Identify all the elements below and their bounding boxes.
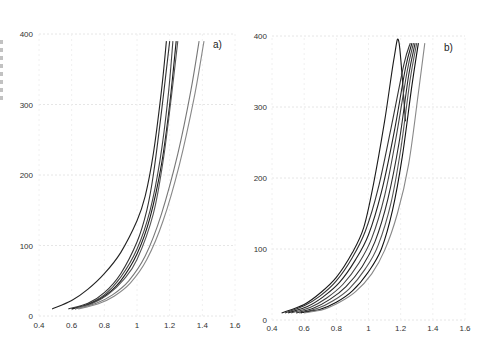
- gridlines: [39, 34, 235, 316]
- series-line-curve7: [78, 41, 204, 309]
- y-tick-label: 100: [20, 242, 34, 251]
- y-tick-label: 400: [254, 32, 268, 41]
- x-tick-label: 0.4: [266, 324, 278, 333]
- x-tick-label: 1: [366, 324, 371, 333]
- y-tick-label: 400: [20, 30, 34, 39]
- y-tick-label: 0: [29, 312, 34, 321]
- x-tick-label: 1.2: [395, 324, 407, 333]
- panel-label: b): [444, 42, 453, 53]
- x-tick-label: 0.8: [99, 321, 111, 330]
- x-tick-label: 1: [135, 321, 140, 330]
- chart-panel-a: 01002003004000.40.60.811.21.41.6a): [0, 0, 245, 353]
- y-tick-label: 200: [20, 171, 34, 180]
- chart-panel-b: 01002003004000.40.60.811.21.41.6b): [245, 0, 490, 353]
- x-tick-label: 0.8: [331, 324, 343, 333]
- panel-label: a): [213, 39, 222, 50]
- x-tick-label: 1.6: [459, 324, 471, 333]
- x-tick-label: 1.2: [164, 321, 176, 330]
- x-tick-label: 1.4: [427, 324, 439, 333]
- chart-a-svg: 01002003004000.40.60.811.21.41.6a): [0, 0, 245, 353]
- y-tick-label: 100: [254, 245, 268, 254]
- x-tick-label: 0.6: [299, 324, 311, 333]
- y-tick-label: 200: [254, 174, 268, 183]
- series-group: [282, 39, 425, 313]
- chart-b-svg: 01002003004000.40.60.811.21.41.6b): [245, 0, 490, 353]
- x-tick-label: 1.4: [197, 321, 209, 330]
- x-tick-label: 0.6: [66, 321, 78, 330]
- x-tick-label: 0.4: [33, 321, 45, 330]
- series-line-curve1: [52, 41, 166, 309]
- series-line-curve3: [72, 41, 173, 309]
- y-tick-label: 300: [20, 101, 34, 110]
- x-tick-label: 1.6: [229, 321, 241, 330]
- y-tick-label: 300: [254, 103, 268, 112]
